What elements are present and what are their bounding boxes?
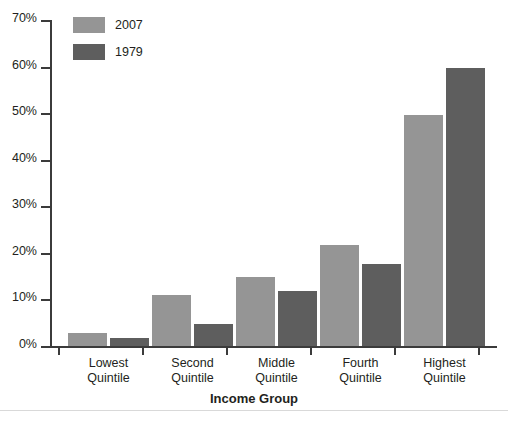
bar-1979-highest-quintile bbox=[446, 68, 485, 346]
bar-1979-lowest-quintile bbox=[110, 338, 149, 346]
x-tick-mark bbox=[394, 346, 396, 355]
y-tick-label: 40% bbox=[12, 151, 37, 165]
bar-2007-middle-quintile bbox=[236, 277, 275, 346]
y-tick-mark bbox=[41, 67, 52, 69]
y-tick-label: 70% bbox=[12, 11, 37, 25]
x-tick-mark bbox=[58, 346, 60, 355]
x-tick-mark bbox=[478, 346, 480, 355]
figure-bottom-rule bbox=[0, 410, 508, 411]
bar-1979-middle-quintile bbox=[278, 291, 317, 346]
x-category-label-highest-quintile: HighestQuintile bbox=[385, 356, 505, 386]
y-tick-mark bbox=[41, 113, 52, 115]
y-tick-label: 60% bbox=[12, 58, 37, 72]
bar-2007-lowest-quintile bbox=[68, 333, 107, 346]
y-tick-label: 30% bbox=[12, 197, 37, 211]
bar-chart-figure: 2007 1979 0%10%20%30%40%50%60%70% Lowest… bbox=[0, 0, 508, 427]
y-tick-mark bbox=[41, 253, 52, 255]
y-tick-label: 50% bbox=[12, 104, 37, 118]
y-tick-mark bbox=[41, 206, 52, 208]
x-axis-title: Income Group bbox=[0, 391, 508, 406]
x-tick-mark bbox=[310, 346, 312, 355]
y-tick-mark bbox=[41, 160, 52, 162]
bar-1979-fourth-quintile bbox=[362, 264, 401, 346]
y-tick-label: 0% bbox=[19, 337, 37, 351]
y-tick-mark bbox=[41, 20, 52, 22]
plot-area: 0%10%20%30%40%50%60%70% bbox=[50, 21, 497, 348]
y-tick-label: 20% bbox=[12, 244, 37, 258]
x-axis-spine bbox=[50, 346, 497, 348]
x-tick-mark bbox=[142, 346, 144, 355]
bar-2007-fourth-quintile bbox=[320, 245, 359, 346]
bar-1979-second-quintile bbox=[194, 324, 233, 346]
y-tick-mark bbox=[41, 299, 52, 301]
x-tick-mark bbox=[226, 346, 228, 355]
bar-2007-second-quintile bbox=[152, 295, 191, 346]
y-tick-label: 10% bbox=[12, 290, 37, 304]
bar-2007-highest-quintile bbox=[404, 115, 443, 346]
y-tick-mark bbox=[41, 346, 52, 348]
